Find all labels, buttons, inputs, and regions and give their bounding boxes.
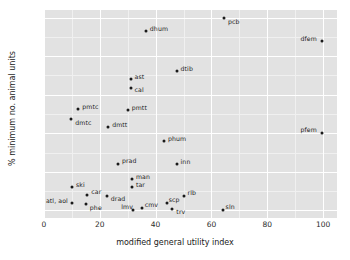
data-point-label: phum <box>168 136 186 142</box>
data-point <box>175 69 178 72</box>
data-point-label: prad <box>122 158 137 164</box>
data-point-label: dmtc <box>75 120 91 126</box>
grid-major-vertical <box>211 10 212 218</box>
grid-minor-horizontal <box>44 114 337 115</box>
data-point-label: pmtc <box>82 104 98 110</box>
data-point-label: ast <box>135 74 145 80</box>
y-axis-title: % minimum no. animal units <box>8 24 17 194</box>
data-point-label: cmv <box>145 202 158 208</box>
data-point-label: pmtt <box>132 105 147 111</box>
grid-minor-horizontal <box>44 153 337 154</box>
data-point-label: rlb <box>188 190 197 196</box>
x-tick-label: 40 <box>151 221 161 229</box>
grid-major-horizontal <box>44 133 337 134</box>
grid-major-vertical <box>267 10 268 218</box>
data-point-label: dhum <box>150 26 168 32</box>
data-point <box>77 108 80 111</box>
data-point-label: phe <box>90 205 102 211</box>
data-point <box>84 202 87 205</box>
x-tick-label: 0 <box>42 221 47 229</box>
data-point-label: trv <box>176 209 185 215</box>
data-point <box>116 163 119 166</box>
data-point <box>162 139 165 142</box>
data-point <box>144 30 147 33</box>
grid-major-horizontal <box>44 18 337 19</box>
data-point <box>70 185 73 188</box>
data-point-label: man <box>136 174 150 180</box>
x-tick-label: 80 <box>262 221 272 229</box>
data-point <box>171 208 174 211</box>
x-tick-label: 20 <box>95 221 105 229</box>
data-point <box>321 132 324 135</box>
grid-major-vertical <box>156 10 157 218</box>
data-point <box>130 186 133 189</box>
data-point <box>222 16 225 19</box>
data-point <box>86 193 89 196</box>
data-point-label: scp <box>169 197 180 203</box>
data-point-label: drad <box>111 196 126 202</box>
data-point-label: tar <box>136 182 145 188</box>
grid-minor-horizontal <box>44 75 337 76</box>
x-tick-label: 100 <box>316 221 330 229</box>
data-point-label: pfem <box>300 127 316 133</box>
data-point <box>182 194 185 197</box>
data-point <box>140 207 143 210</box>
data-point-label: dfem <box>300 36 316 42</box>
data-point-label: car <box>91 189 101 195</box>
plot-panel: pcbdfemdhumdtibastcalpmtcpmttdmtcdmttpfe… <box>44 10 337 218</box>
data-point-label: cal <box>135 87 144 93</box>
data-point-label: lmv <box>121 204 133 210</box>
grid-major-horizontal <box>44 172 337 173</box>
data-point <box>105 194 108 197</box>
grid-minor-horizontal <box>44 37 337 38</box>
data-point <box>129 78 132 81</box>
data-point <box>321 39 324 42</box>
data-point <box>175 163 178 166</box>
data-point-label: atl, aol <box>46 198 68 204</box>
data-point-label: dmtt <box>112 122 127 128</box>
data-point-label: inn <box>181 159 191 165</box>
data-point <box>70 201 73 204</box>
data-point <box>107 125 110 128</box>
data-point <box>129 87 132 90</box>
grid-major-vertical <box>44 10 45 218</box>
x-axis-title: modified general utility index <box>0 238 350 247</box>
grid-major-horizontal <box>44 210 337 211</box>
data-point <box>126 109 129 112</box>
data-point <box>221 208 224 211</box>
data-point-label: ski <box>76 182 85 188</box>
data-point-label: pcb <box>228 19 240 25</box>
x-tick-label: 60 <box>207 221 217 229</box>
data-point <box>130 178 133 181</box>
data-point <box>70 117 73 120</box>
grid-major-horizontal <box>44 95 337 96</box>
grid-major-horizontal <box>44 56 337 57</box>
grid-major-vertical <box>100 10 101 218</box>
data-point-label: sln <box>226 204 235 210</box>
scatter-plot-figure: pcbdfemdhumdtibastcalpmtcpmttdmtcdmttpfe… <box>0 0 350 260</box>
data-point-label: dtib <box>181 66 193 72</box>
